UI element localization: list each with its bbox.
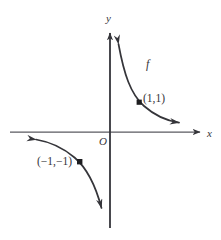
graph-figure: y x O f (1,1) (−1,−1) <box>0 0 221 240</box>
curve-branch-quadrant-3 <box>36 140 102 209</box>
curve-branch-quadrant-1 <box>119 44 180 123</box>
curve-label-f: f <box>146 58 149 70</box>
point-marker-neg1-neg1 <box>77 159 82 164</box>
point-marker-1-1 <box>137 100 142 105</box>
coordinate-plane-svg <box>0 0 221 240</box>
point-label-1-1: (1,1) <box>143 93 165 105</box>
origin-label: O <box>99 136 107 147</box>
point-label-neg1-neg1: (−1,−1) <box>37 156 72 168</box>
y-axis-label: y <box>106 13 111 24</box>
x-axis-label: x <box>207 128 212 139</box>
